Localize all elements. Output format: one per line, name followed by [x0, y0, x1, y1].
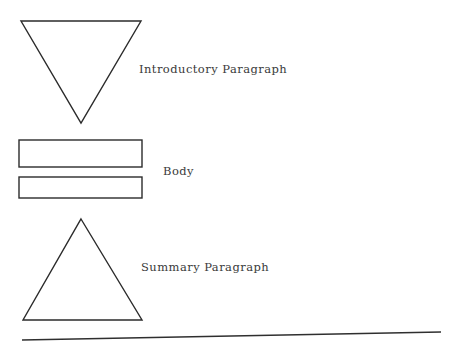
- upright-triangle-shape: [23, 219, 142, 320]
- body-rectangle-bottom-shape: [19, 177, 142, 198]
- label-summary-paragraph: Summary Paragraph: [141, 262, 269, 274]
- inverted-triangle-shape: [21, 21, 141, 123]
- body-rectangle-top-shape: [19, 140, 142, 167]
- label-body: Body: [163, 166, 194, 178]
- diagram-canvas: Introductory Paragraph Body Summary Para…: [0, 0, 451, 354]
- label-introductory-paragraph: Introductory Paragraph: [139, 64, 287, 76]
- baseline-rule-shape: [22, 332, 441, 340]
- diagram-shapes-layer: [0, 0, 451, 354]
